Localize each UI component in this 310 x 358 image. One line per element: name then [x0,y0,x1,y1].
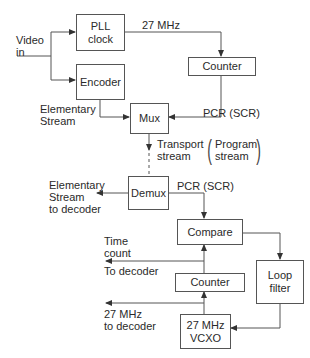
loop-filter-block: Loop filter [256,260,304,304]
pll-27mhz-label: 27 MHz [142,19,180,31]
counter-encoder-block: Counter [188,57,256,76]
encoder-block: Encoder [76,64,125,100]
elementary-stream-in-label: Elementary Stream [40,103,96,127]
elementary-stream-out-label: Elementary Stream to decoder [49,179,105,215]
transport-stream-label: Transport stream [157,138,204,162]
video-in-label: Video in [16,34,44,58]
mux-block: Mux [130,103,169,134]
close-paren: ) [256,136,261,164]
pll-clock-block: PLL clock [76,14,125,51]
pcr-decoder-label: PCR (SCR) [177,180,234,192]
time-count-label: Time count [104,235,131,259]
open-paren: ( [207,136,212,164]
clock-to-decoder-label: 27 MHz to decoder [104,308,156,332]
program-stream-label: Program stream [215,138,257,162]
counter-decoder-block: Counter [175,273,245,292]
vcxo-block: 27 MHz VCXO [180,314,231,349]
pcr-encoder-label: PCR (SCR) [203,107,260,119]
to-decoder-label: To decoder [104,265,158,277]
demux-block: Demux [128,176,169,210]
compare-block: Compare [177,219,243,245]
